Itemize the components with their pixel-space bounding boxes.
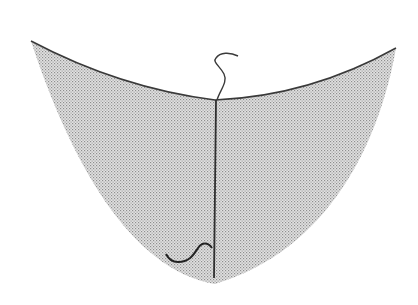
net-bag-diagram [0, 0, 418, 305]
top-wavy-hook [215, 53, 238, 100]
